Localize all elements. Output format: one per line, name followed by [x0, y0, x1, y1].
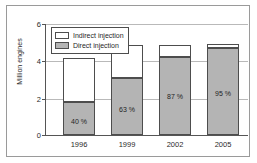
y-axis-title: Million engines: [16, 32, 23, 92]
x-axis-line: [45, 135, 248, 136]
bar-percent-label: 63 %: [111, 106, 143, 113]
y-tick-label: 2: [37, 94, 41, 103]
gridline: [45, 24, 248, 25]
bar-percent-label: 40 %: [63, 118, 95, 125]
y-tick-label: 6: [37, 20, 41, 29]
bar-percent-label: 87 %: [159, 93, 191, 100]
y-tick-label: 4: [37, 57, 41, 66]
legend-item-indirect: Indirect injection: [55, 31, 124, 40]
legend-label-indirect: Indirect injection: [73, 32, 124, 39]
x-tick-label-2002: 2002: [159, 140, 191, 149]
y-axis-line: [45, 24, 46, 136]
chart-legend: Indirect injection Direct injection: [51, 27, 129, 54]
bar-percent-label: 95 %: [207, 90, 239, 97]
x-tick-label-2005: 2005: [207, 140, 239, 149]
legend-label-direct: Direct injection: [73, 42, 119, 49]
bar-segment-indirect: [159, 45, 191, 57]
bar-1996[interactable]: 40 %: [63, 58, 95, 136]
bar-segment-indirect: [63, 58, 95, 103]
x-tick-label-1999: 1999: [111, 140, 143, 149]
y-tick-label: 0: [37, 131, 41, 140]
bar-2005[interactable]: 95 %: [207, 44, 239, 135]
bar-1999[interactable]: 63 %: [111, 45, 143, 135]
x-tick-label-1996: 1996: [63, 140, 95, 149]
legend-item-direct: Direct injection: [55, 41, 124, 50]
legend-swatch-icon: [55, 32, 69, 39]
bar-2002[interactable]: 87 %: [159, 45, 191, 135]
legend-swatch-icon: [55, 42, 69, 49]
chart-screenshot: Million engines 0 2 4 6: [0, 0, 257, 163]
chart-frame: Million engines 0 2 4 6: [6, 5, 250, 157]
